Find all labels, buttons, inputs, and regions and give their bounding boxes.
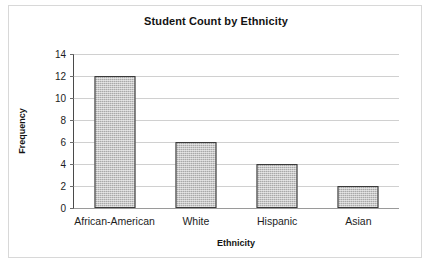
y-axis-tick-label: 0	[60, 203, 66, 214]
x-axis-category-label: White	[182, 215, 209, 227]
bar-group: Hispanic	[237, 54, 318, 208]
y-axis-tick-label: 12	[55, 71, 66, 82]
x-axis-category-label: Hispanic	[257, 215, 297, 227]
y-axis-tick-label: 10	[55, 93, 66, 104]
y-axis-tick-label: 6	[60, 137, 66, 148]
chart-title: Student Count by Ethnicity	[9, 15, 423, 27]
bar[interactable]	[94, 76, 135, 208]
y-axis-tick-label: 8	[60, 115, 66, 126]
plot-area: 02468101214 African-AmericanWhiteHispani…	[73, 54, 399, 209]
y-axis-tick-label: 4	[60, 159, 66, 170]
bars-layer: African-AmericanWhiteHispanicAsian	[74, 54, 399, 208]
bar[interactable]	[257, 164, 298, 208]
bar-group: Asian	[318, 54, 399, 208]
x-axis-category-label: African-American	[74, 215, 155, 227]
bar[interactable]	[338, 186, 379, 208]
y-axis-tick-label: 14	[55, 49, 66, 60]
bar[interactable]	[175, 142, 216, 208]
x-axis-category-label: Asian	[345, 215, 371, 227]
y-axis-tick-label: 2	[60, 181, 66, 192]
chart-frame: Student Count by Ethnicity 02468101214 A…	[8, 5, 422, 258]
x-axis-title: Ethnicity	[73, 238, 399, 248]
bar-group: White	[155, 54, 236, 208]
y-axis-title: Frequency	[17, 108, 27, 154]
y-axis-tick	[70, 208, 74, 209]
bar-group: African-American	[74, 54, 155, 208]
